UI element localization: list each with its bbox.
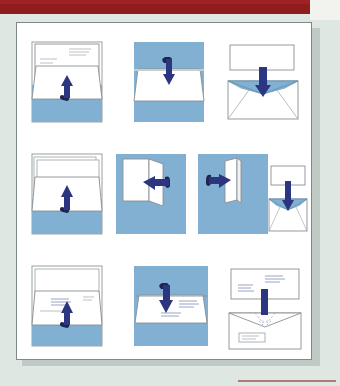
- panel-6-art: [197, 153, 269, 235]
- arrow-down-icon: [261, 289, 268, 315]
- panel-3-art: [225, 41, 301, 123]
- panel-fold-letter-bottom-up: [31, 41, 103, 123]
- panel-grid: [17, 23, 311, 359]
- panel-4-art: [31, 153, 103, 235]
- panel-8-art: [31, 265, 103, 347]
- panel-fold-addressed-letter-up: [31, 265, 103, 347]
- top-right-white-margin: [310, 0, 340, 20]
- panel-10-art: [225, 265, 305, 353]
- panel-fold-addressed-letter-down: [133, 265, 209, 347]
- panel-7-art: [267, 163, 309, 235]
- panel-1-art: [31, 41, 103, 123]
- panel-fold-letter-top-down: [133, 41, 205, 123]
- panel-5-art: [115, 153, 187, 235]
- panel-insert-folded-sheet-into-envelope: [267, 163, 309, 235]
- panel-9-art: [133, 265, 209, 347]
- panel-insert-into-window-envelope: [225, 265, 305, 353]
- instruction-figure-panel: [16, 22, 312, 360]
- page-root: [0, 0, 340, 386]
- panel-fold-sheet-left-to-right: [197, 153, 269, 235]
- top-red-band: [0, 0, 310, 14]
- bottom-red-rule: [238, 380, 336, 382]
- panel-2-art: [133, 41, 205, 123]
- panel-fold-sheet-right-to-left: [115, 153, 187, 235]
- panel-fold-stack-bottom-up: [31, 153, 103, 235]
- panel-insert-letter-into-envelope: [225, 41, 301, 123]
- bottom-page-strip: [0, 372, 340, 386]
